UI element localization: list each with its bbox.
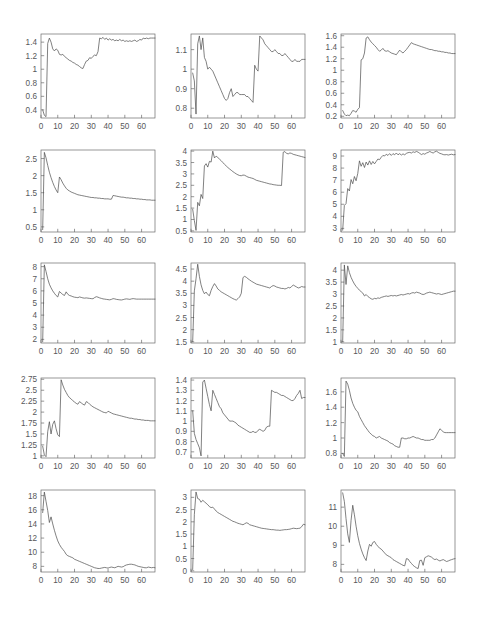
y-tick-label: 1: [32, 206, 37, 215]
y-tick-label: 1.1: [176, 46, 188, 55]
y-tick-label: 0.5: [176, 555, 188, 564]
x-tick-label: 50: [420, 236, 430, 245]
x-tick-label: 40: [254, 576, 264, 585]
x-tick-label: 30: [237, 347, 247, 356]
x-tick-label: 20: [370, 576, 380, 585]
y-tick-label: 1.6: [326, 388, 338, 397]
y-tick-label: 11: [329, 503, 338, 512]
x-tick-label: 60: [137, 347, 147, 356]
plot-frame: [191, 378, 305, 458]
y-tick-label: 1.5: [176, 338, 188, 347]
y-tick-label: 0: [182, 567, 187, 576]
x-tick-label: 60: [437, 347, 447, 356]
x-tick-label: 20: [220, 236, 230, 245]
x-tick-label: 30: [87, 576, 97, 585]
x-tick-label: 40: [404, 236, 414, 245]
y-tick-label: 1: [32, 452, 37, 461]
data-series-line: [193, 36, 305, 114]
y-tick-label: 16: [28, 506, 38, 515]
x-tick-label: 50: [120, 462, 130, 471]
y-tick-label: 2: [182, 518, 187, 527]
y-tick-label: 1: [32, 65, 37, 74]
y-tick-label: 1.5: [176, 530, 188, 539]
y-tick-label: 0.4: [26, 106, 38, 115]
x-tick-label: 20: [70, 576, 80, 585]
y-tick-label: 1.5: [26, 430, 38, 439]
y-tick-label: 1.2: [326, 55, 338, 64]
y-tick-label: 12: [28, 534, 38, 543]
x-tick-label: 50: [270, 122, 280, 131]
chart-panel: 1.522.533.544.50102030405060: [147, 255, 315, 361]
data-series-line: [343, 493, 455, 569]
data-series-line: [193, 151, 305, 230]
x-tick-label: 0: [189, 576, 194, 585]
y-tick-label: 5: [332, 200, 337, 209]
x-tick-label: 40: [404, 576, 414, 585]
x-tick-label: 30: [87, 462, 97, 471]
chart-panel: 23456780102030405060: [0, 255, 165, 361]
x-tick-label: 20: [220, 462, 230, 471]
x-tick-label: 20: [70, 236, 80, 245]
y-tick-label: 1: [182, 417, 187, 426]
x-tick-label: 60: [137, 576, 147, 585]
x-tick-label: 10: [353, 576, 363, 585]
y-tick-label: 2.75: [21, 375, 37, 384]
x-tick-label: 0: [39, 462, 44, 471]
y-tick-label: 2.5: [176, 181, 188, 190]
x-tick-label: 20: [220, 347, 230, 356]
y-tick-label: 14: [28, 520, 38, 529]
x-tick-label: 50: [420, 576, 430, 585]
x-tick-label: 40: [404, 347, 414, 356]
y-tick-label: 1.2: [26, 52, 38, 61]
x-tick-label: 10: [203, 576, 213, 585]
chart-panel: 0.811.21.41.60102030405060: [297, 370, 465, 476]
chart-panel: 0.80.911.10102030405060: [147, 26, 315, 136]
y-tick-label: 2.25: [21, 397, 37, 406]
y-tick-label: 1: [332, 338, 337, 347]
x-tick-label: 20: [70, 462, 80, 471]
x-tick-label: 0: [39, 576, 44, 585]
x-tick-label: 10: [53, 236, 63, 245]
x-tick-label: 50: [420, 462, 430, 471]
data-series-line: [43, 265, 155, 342]
y-tick-label: 2: [32, 335, 37, 344]
x-tick-label: 20: [220, 122, 230, 131]
x-tick-label: 10: [353, 347, 363, 356]
x-tick-label: 0: [339, 122, 344, 131]
y-tick-label: 10: [28, 548, 38, 557]
x-tick-label: 60: [287, 122, 297, 131]
x-tick-label: 50: [270, 576, 280, 585]
y-tick-label: 1.3: [176, 386, 188, 395]
y-tick-label: 1: [182, 215, 187, 224]
x-tick-label: 30: [387, 576, 397, 585]
y-tick-label: 4: [182, 147, 187, 156]
y-tick-label: 9: [332, 541, 337, 550]
y-tick-label: 4.5: [176, 265, 188, 274]
x-tick-label: 60: [137, 462, 147, 471]
data-series-line: [43, 380, 155, 457]
y-tick-label: 3: [332, 224, 337, 233]
y-tick-label: 1.4: [26, 38, 38, 47]
x-tick-label: 30: [87, 347, 97, 356]
y-tick-label: 0.9: [176, 427, 188, 436]
x-tick-label: 40: [254, 462, 264, 471]
x-tick-label: 0: [189, 236, 194, 245]
x-tick-label: 60: [437, 462, 447, 471]
x-tick-label: 30: [237, 236, 247, 245]
x-tick-label: 20: [370, 462, 380, 471]
y-tick-label: 2: [32, 408, 37, 417]
x-tick-label: 30: [387, 462, 397, 471]
y-tick-label: 0.2: [326, 112, 338, 121]
x-tick-label: 50: [420, 347, 430, 356]
x-tick-label: 20: [220, 576, 230, 585]
y-tick-label: 7: [32, 275, 37, 284]
y-tick-label: 8: [32, 263, 37, 272]
data-series-line: [43, 152, 155, 229]
y-tick-label: 0.6: [326, 89, 338, 98]
x-tick-label: 40: [404, 462, 414, 471]
chart-panel: 11.522.533.540102030405060: [297, 255, 465, 361]
y-tick-label: 0.7: [176, 448, 188, 457]
y-tick-label: 10: [328, 522, 338, 531]
y-tick-label: 4: [182, 277, 187, 286]
plot-frame: [341, 263, 455, 343]
